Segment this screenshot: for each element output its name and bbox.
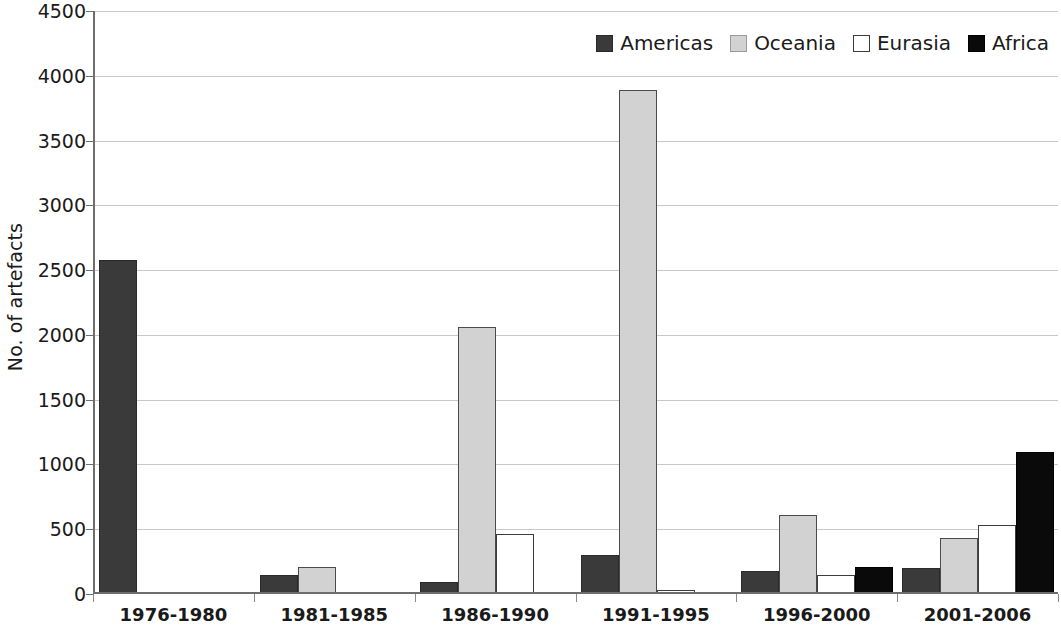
bar-eurasia-2001-2006 bbox=[978, 525, 1016, 594]
bar-oceania-1991-1995 bbox=[619, 90, 657, 594]
legend-item-americas[interactable]: Americas bbox=[596, 31, 713, 55]
x-axis-label-1976-1980: 1976-1980 bbox=[93, 604, 254, 625]
bar-oceania-1981-1985 bbox=[298, 567, 336, 594]
y-axis-tick-label: 1000 bbox=[30, 455, 86, 474]
bar-chart: No. of artefacts 45004000350030002500200… bbox=[0, 0, 1061, 634]
y-axis-tick-mark bbox=[86, 529, 93, 530]
y-axis-tick-label: 4500 bbox=[30, 2, 86, 21]
bar-group-1996-2000 bbox=[737, 11, 898, 594]
bar-oceania-1986-1990 bbox=[458, 327, 496, 594]
y-axis-tick-mark bbox=[86, 205, 93, 206]
bar-oceania-1996-2000 bbox=[779, 515, 817, 594]
y-axis-tick-mark bbox=[86, 270, 93, 271]
y-axis-tick-label: 2500 bbox=[30, 261, 86, 280]
bar-americas-1996-2000 bbox=[741, 571, 779, 594]
legend-label-oceania: Oceania bbox=[754, 31, 836, 55]
legend-swatch-americas-icon bbox=[596, 35, 613, 52]
y-axis-tick-mark bbox=[86, 464, 93, 465]
legend-swatch-oceania-icon bbox=[730, 35, 747, 52]
legend-item-oceania[interactable]: Oceania bbox=[730, 31, 836, 55]
legend-item-eurasia[interactable]: Eurasia bbox=[853, 31, 951, 55]
bar-oceania-2001-2006 bbox=[940, 538, 978, 594]
legend-swatch-africa-icon bbox=[968, 35, 985, 52]
y-axis-tick-label: 2000 bbox=[30, 325, 86, 344]
bar-group-1986-1990 bbox=[416, 11, 577, 594]
bar-africa-1996-2000 bbox=[855, 567, 893, 594]
bar-group-1991-1995 bbox=[577, 11, 738, 594]
bar-americas-2001-2006 bbox=[902, 568, 940, 594]
bar-eurasia-1986-1990 bbox=[496, 534, 534, 594]
y-axis-tick-mark bbox=[86, 594, 93, 595]
legend-swatch-eurasia-icon bbox=[853, 35, 870, 52]
x-axis-tick-mark bbox=[736, 594, 737, 602]
y-axis-tick-label: 0 bbox=[30, 585, 86, 604]
y-axis-tick-mark bbox=[86, 400, 93, 401]
x-axis-label-2001-2006: 2001-2006 bbox=[897, 604, 1058, 625]
bar-americas-1991-1995 bbox=[581, 555, 619, 594]
y-axis-tick-label: 3500 bbox=[30, 131, 86, 150]
x-axis-labels: 1976-19801981-19851986-19901991-19951996… bbox=[93, 604, 1058, 625]
y-axis-tick-label: 4000 bbox=[30, 66, 86, 85]
y-axis-tick-mark bbox=[86, 76, 93, 77]
y-axis-tick-label: 1500 bbox=[30, 390, 86, 409]
x-axis-tick-mark bbox=[93, 594, 94, 602]
x-axis-line bbox=[95, 592, 1058, 594]
chart-legend: AmericasOceaniaEurasiaAfrica bbox=[596, 31, 1049, 55]
bar-group-1976-1980 bbox=[95, 11, 256, 594]
x-axis-label-1981-1985: 1981-1985 bbox=[254, 604, 415, 625]
bar-americas-1976-1980 bbox=[99, 260, 137, 594]
bar-group-2001-2006 bbox=[898, 11, 1059, 594]
x-axis-tick-mark bbox=[1058, 594, 1059, 602]
y-axis-tick-label: 500 bbox=[30, 520, 86, 539]
y-axis-title-text: No. of artefacts bbox=[4, 223, 26, 371]
bar-group-1981-1985 bbox=[256, 11, 417, 594]
bar-groups bbox=[95, 11, 1058, 594]
x-axis-label-1991-1995: 1991-1995 bbox=[575, 604, 736, 625]
x-axis-label-1986-1990: 1986-1990 bbox=[415, 604, 576, 625]
y-axis-tick-mark bbox=[86, 11, 93, 12]
x-axis-tick-mark bbox=[897, 594, 898, 602]
legend-item-africa[interactable]: Africa bbox=[968, 31, 1049, 55]
x-axis-tick-mark bbox=[254, 594, 255, 602]
x-axis-tick-mark bbox=[415, 594, 416, 602]
legend-label-eurasia: Eurasia bbox=[877, 31, 951, 55]
y-axis-tick-mark bbox=[86, 335, 93, 336]
x-axis-tick-mark bbox=[576, 594, 577, 602]
x-axis-label-1996-2000: 1996-2000 bbox=[736, 604, 897, 625]
legend-label-americas: Americas bbox=[620, 31, 713, 55]
y-axis-tick-label: 3000 bbox=[30, 196, 86, 215]
y-axis-tick-labels: 450040003500300025002000150010005000 bbox=[30, 0, 86, 634]
bar-africa-2001-2006 bbox=[1016, 452, 1054, 595]
y-axis-tick-mark bbox=[86, 141, 93, 142]
legend-label-africa: Africa bbox=[992, 31, 1049, 55]
y-axis-title: No. of artefacts bbox=[0, 0, 30, 594]
plot-area bbox=[93, 11, 1058, 594]
